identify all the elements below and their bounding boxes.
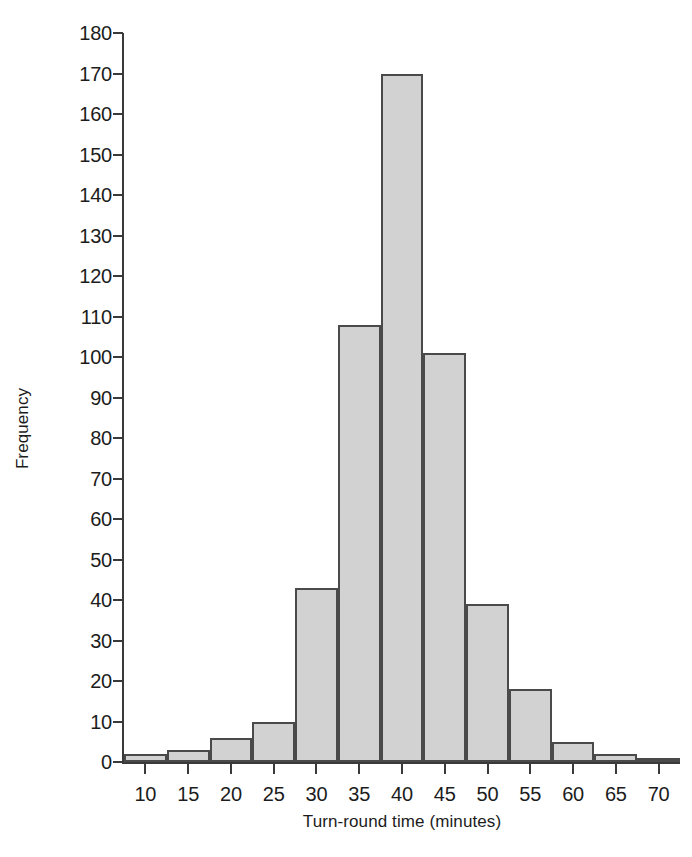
y-tick-label: 30 [48,629,112,652]
x-tick-mark [487,763,489,774]
x-tick-label: 35 [348,783,370,806]
y-tick-mark [113,559,123,561]
histogram-bar [509,689,552,762]
y-tick-label: 80 [48,427,112,450]
x-axis-title: Turn-round time (minutes) [124,812,680,832]
y-tick-mark [113,316,123,318]
histogram-bar [637,758,680,762]
y-tick-mark [113,680,123,682]
x-tick-label: 15 [177,783,199,806]
histogram-bar [167,750,210,762]
y-tick-mark [113,721,123,723]
x-tick-label: 25 [263,783,285,806]
y-tick-label: 100 [48,346,112,369]
y-tick-label: 160 [48,103,112,126]
x-tick-mark [658,763,660,774]
x-tick-mark [572,763,574,774]
x-tick-label: 65 [605,783,627,806]
y-tick-label: 0 [48,751,112,774]
histogram-bar [124,754,167,762]
x-tick-mark [529,763,531,774]
x-tick-mark [444,763,446,774]
histogram-bar [381,74,424,763]
y-tick-label: 60 [48,508,112,531]
histogram-bar [295,588,338,762]
x-tick-label: 50 [477,783,499,806]
x-tick-label: 60 [562,783,584,806]
y-tick-mark [113,235,123,237]
x-tick-mark [230,763,232,774]
y-tick-label: 180 [48,22,112,45]
x-tick-label: 40 [391,783,413,806]
y-tick-label: 40 [48,589,112,612]
histogram-bar [252,722,295,763]
histogram-chart: Frequency 010203040506070809010011012013… [0,0,692,857]
x-tick-label: 10 [134,783,156,806]
x-tick-label: 20 [220,783,242,806]
y-tick-mark [113,437,123,439]
y-tick-mark [113,397,123,399]
y-tick-mark [113,761,123,763]
y-tick-label: 150 [48,143,112,166]
y-tick-mark [113,518,123,520]
y-tick-label: 10 [48,710,112,733]
y-tick-mark [113,478,123,480]
x-tick-mark [615,763,617,774]
y-tick-mark [113,32,123,34]
plot-area: 10152025303540455055606570 [124,33,680,762]
y-tick-label: 110 [48,305,112,328]
x-tick-label: 45 [434,783,456,806]
y-tick-mark [113,73,123,75]
histogram-bar [210,738,253,762]
y-axis-title: Frequency [0,0,46,857]
y-tick-label: 70 [48,467,112,490]
histogram-bar [423,353,466,762]
x-tick-label: 55 [519,783,541,806]
y-axis-tick-labels: 0102030405060708090100110120130140150160… [48,0,112,857]
y-tick-label: 140 [48,184,112,207]
histogram-bar [594,754,637,762]
y-tick-mark [113,275,123,277]
y-tick-label: 130 [48,224,112,247]
y-tick-mark [113,356,123,358]
y-tick-label: 50 [48,548,112,571]
histogram-bar [466,604,509,762]
x-tick-mark [144,763,146,774]
y-tick-label: 120 [48,265,112,288]
x-tick-mark [401,763,403,774]
x-tick-mark [358,763,360,774]
y-tick-mark [113,113,123,115]
y-tick-mark [113,640,123,642]
y-tick-mark [113,194,123,196]
histogram-bar [552,742,595,762]
x-tick-label: 70 [648,783,670,806]
x-tick-mark [315,763,317,774]
y-tick-label: 170 [48,62,112,85]
x-tick-mark [273,763,275,774]
y-tick-label: 90 [48,386,112,409]
x-tick-mark [187,763,189,774]
y-tick-mark [113,599,123,601]
histogram-bar [338,325,381,762]
x-tick-label: 30 [306,783,328,806]
y-tick-mark [113,154,123,156]
y-tick-label: 20 [48,670,112,693]
